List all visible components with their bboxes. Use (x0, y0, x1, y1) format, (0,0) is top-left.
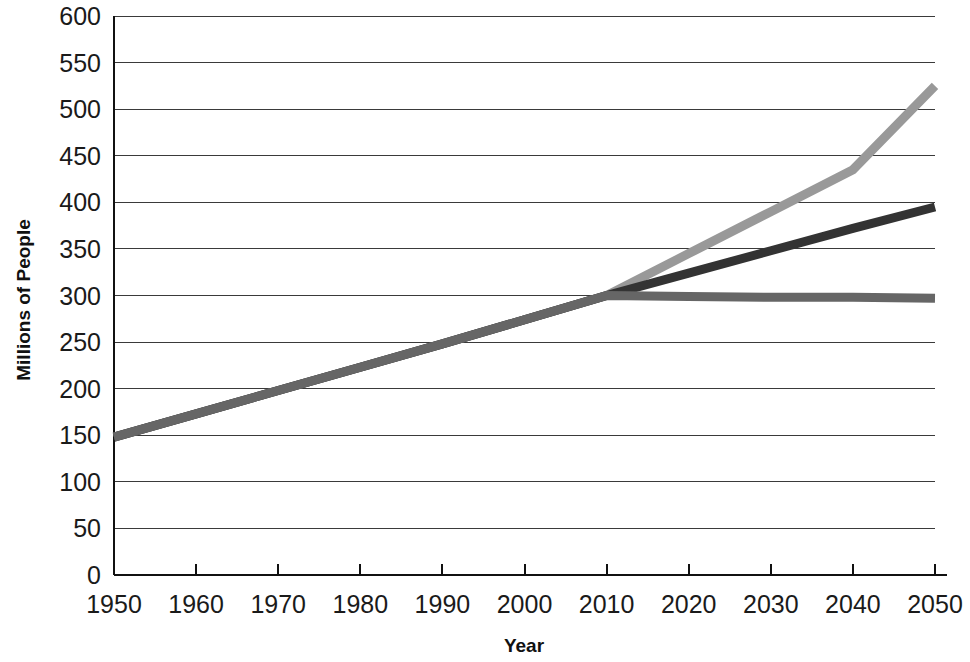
series-line-low-projection (114, 296, 935, 438)
series-group (114, 86, 935, 437)
y-tick-label-50: 50 (73, 514, 101, 542)
x-tick-label-2010: 2010 (579, 590, 635, 618)
y-tick-label-300: 300 (59, 282, 101, 310)
x-tick-label-1970: 1970 (250, 590, 306, 618)
series-line-high-projection (114, 86, 935, 437)
gridlines-group (114, 16, 935, 528)
y-tick-labels-group: 050100150200250300350400450500550600 (59, 2, 101, 589)
x-tick-label-2050: 2050 (907, 590, 963, 618)
y-tick-label-550: 550 (59, 49, 101, 77)
x-tick-label-2040: 2040 (825, 590, 881, 618)
x-tick-label-2000: 2000 (497, 590, 553, 618)
x-tick-label-1990: 1990 (415, 590, 471, 618)
x-tick-label-1960: 1960 (168, 590, 224, 618)
tickmarks-group (196, 564, 935, 575)
y-tick-label-450: 450 (59, 142, 101, 170)
y-tick-label-600: 600 (59, 2, 101, 30)
x-tick-label-2030: 2030 (743, 590, 799, 618)
y-tick-label-250: 250 (59, 328, 101, 356)
y-tick-label-100: 100 (59, 468, 101, 496)
y-tick-label-500: 500 (59, 95, 101, 123)
y-tick-label-150: 150 (59, 421, 101, 449)
y-tick-label-350: 350 (59, 235, 101, 263)
y-axis-title: Millions of People (13, 219, 34, 381)
population-projection-chart: 050100150200250300350400450500550600 195… (0, 0, 970, 662)
x-tick-label-2020: 2020 (661, 590, 717, 618)
x-axis-title: Year (504, 635, 545, 656)
x-tick-label-1950: 1950 (86, 590, 142, 618)
y-tick-label-0: 0 (87, 561, 101, 589)
y-tick-label-200: 200 (59, 375, 101, 403)
x-tick-labels-group: 1950196019701980199020002010202020302040… (86, 590, 963, 618)
chart-canvas: 050100150200250300350400450500550600 195… (0, 0, 970, 662)
y-tick-label-400: 400 (59, 188, 101, 216)
x-tick-label-1980: 1980 (332, 590, 388, 618)
